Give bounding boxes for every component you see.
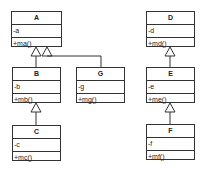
generalization-g-a [42,47,101,67]
class-name: B [13,68,60,81]
class-c: C -c +mc() [12,125,61,161]
generalization-f-e [165,103,175,124]
class-attribute: -e [147,81,194,94]
class-method: +mb() [13,94,60,106]
class-attribute: -g [77,81,124,94]
generalization-c-b [31,103,41,125]
class-attribute: -c [13,139,60,152]
class-name: C [13,126,60,139]
generalization-e-d [165,47,175,67]
class-name: E [147,68,194,81]
class-method: +mc() [13,152,60,164]
class-b: B -b +mb() [12,67,61,103]
class-attribute: -a [12,25,61,38]
class-method: +me() [147,94,194,106]
class-d: D -d +md() [146,11,195,47]
class-attribute: -b [13,81,60,94]
class-attribute: -f [147,138,194,151]
class-name: A [12,12,61,25]
class-g: G -g +mg() [76,67,125,103]
class-attribute: -d [147,25,194,38]
class-name: D [147,12,194,25]
class-e: E -e +me() [146,67,195,103]
class-f: F -f +mf() [146,124,195,160]
class-name: G [77,68,124,81]
generalization-b-a [31,47,41,67]
class-name: F [147,125,194,138]
class-method: +mg() [77,94,124,106]
class-method: +mf() [147,151,194,163]
class-method: +md() [147,38,194,50]
class-a: A -a +ma() [11,11,62,47]
class-method: +ma() [12,38,61,50]
